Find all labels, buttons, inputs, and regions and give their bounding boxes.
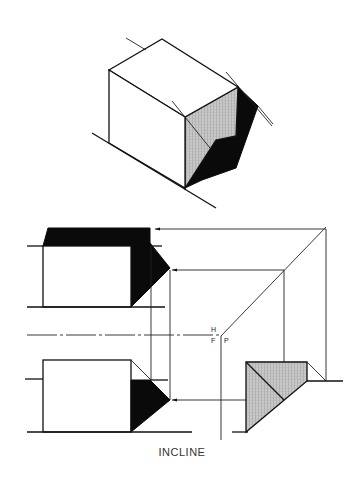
label-p: P xyxy=(224,337,229,344)
figure-caption: INCLINE xyxy=(0,446,364,458)
front-shadow xyxy=(131,380,170,432)
top-shadow-right xyxy=(131,243,170,307)
side-shaded xyxy=(246,362,307,432)
front-rect xyxy=(43,360,131,432)
label-h: H xyxy=(211,326,216,333)
arrow-icon xyxy=(172,269,177,272)
pictorial-view xyxy=(92,38,273,208)
front-view xyxy=(25,360,192,432)
ground-line xyxy=(258,106,273,124)
orthographic-shadow-diagram: H F P xyxy=(0,0,364,486)
ray-line xyxy=(126,38,146,50)
arrow-icon xyxy=(172,399,177,402)
top-shadow xyxy=(43,228,150,246)
top-rect xyxy=(43,246,131,307)
shadow-edge xyxy=(131,360,151,380)
miter-line xyxy=(221,227,326,336)
label-f: F xyxy=(211,337,215,344)
arrow-icon xyxy=(155,228,160,231)
top-view xyxy=(27,228,170,307)
shadow-edge xyxy=(307,362,326,381)
